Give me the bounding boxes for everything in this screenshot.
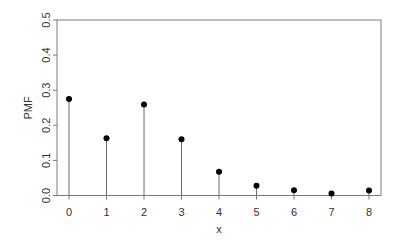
data-point — [179, 136, 185, 142]
data-point — [329, 190, 335, 196]
x-tick-label: 7 — [328, 206, 334, 218]
y-tick-label: 0.3 — [40, 83, 52, 98]
data-point — [104, 135, 110, 141]
data-point — [66, 96, 72, 102]
y-tick-label: 0.5 — [40, 12, 52, 27]
y-tick-label: 0.1 — [40, 153, 52, 168]
x-axis-title: x — [216, 223, 222, 235]
data-point — [141, 102, 147, 108]
stem-series — [66, 96, 372, 196]
data-point — [216, 169, 222, 175]
data-point — [366, 188, 372, 194]
x-tick-label: 6 — [291, 206, 297, 218]
y-tick-label: 0.0 — [40, 188, 52, 203]
pmf-stem-chart: 012345678 0.00.10.20.30.40.5 x PMF — [0, 0, 400, 246]
x-tick-label: 3 — [178, 206, 184, 218]
y-axis-title: PMF — [22, 96, 34, 120]
x-tick-label: 1 — [103, 206, 109, 218]
x-tick-label: 2 — [141, 206, 147, 218]
y-tick-label: 0.4 — [40, 47, 52, 62]
y-axis: 0.00.10.20.30.40.5 — [40, 12, 57, 203]
y-tick-label: 0.2 — [40, 118, 52, 133]
data-point — [254, 183, 260, 189]
x-tick-label: 0 — [66, 206, 72, 218]
x-tick-label: 5 — [253, 206, 259, 218]
data-point — [291, 187, 297, 193]
x-axis: 012345678 — [66, 196, 372, 219]
x-tick-label: 4 — [216, 206, 222, 218]
x-tick-label: 8 — [366, 206, 372, 218]
